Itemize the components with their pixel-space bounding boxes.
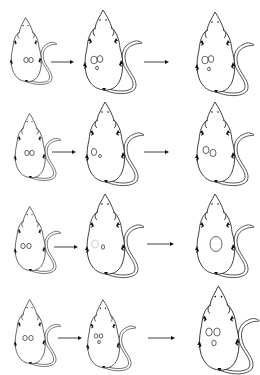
mouse-stage-2: [85, 102, 144, 186]
row-4: [14, 286, 260, 374]
arrow-icon: [58, 336, 82, 340]
tumors: [23, 328, 220, 346]
arrow-icon: [144, 150, 169, 154]
mouse-stage-1: [14, 114, 61, 181]
row-3: [14, 194, 254, 278]
mouse-stage-2: [86, 300, 136, 371]
mouse-stage-1: [14, 207, 61, 274]
arrow-icon: [148, 336, 175, 340]
mouse-stage-3: [197, 286, 259, 374]
arrow-icon: [51, 60, 74, 64]
mouse-stage-1: [14, 300, 61, 367]
row-1: [10, 10, 254, 96]
arrow-icon: [144, 60, 169, 64]
mouse-stage-3: [195, 12, 254, 96]
mouse-stage-2: [85, 194, 144, 278]
mouse-stage-3: [195, 102, 254, 186]
mouse-stage-3: [195, 194, 254, 278]
arrow-icon: [54, 245, 78, 249]
arrow-icon: [52, 150, 76, 154]
tumor-growth-diagram: [0, 0, 260, 375]
mouse-stage-2: [83, 10, 142, 94]
row-2: [14, 102, 254, 186]
arrow-icon: [147, 242, 174, 246]
mouse-stage-1: [10, 18, 57, 85]
